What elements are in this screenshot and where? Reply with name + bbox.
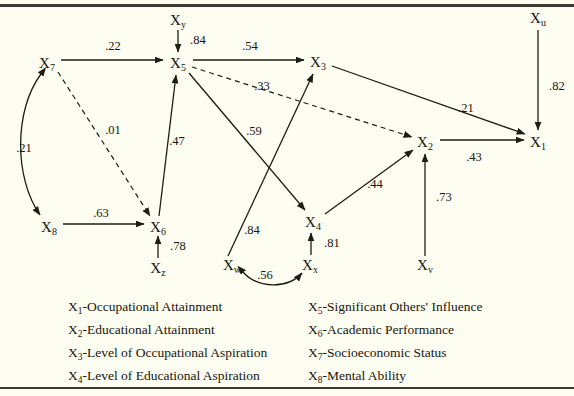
node-x7: X7: [39, 55, 55, 73]
node-x3: X3: [310, 54, 326, 72]
coefficient-xz-x6: .78: [170, 239, 186, 253]
legend-var-x2: X: [68, 322, 78, 337]
node-x4: X4: [305, 214, 321, 232]
coefficient-x5-x2: .33: [254, 79, 270, 93]
coefficient-xv-x2: .73: [436, 190, 452, 204]
legend-var-x1: X: [68, 299, 78, 314]
legend-desc-x8: -Mental Ability: [323, 368, 407, 383]
legend-sub-x4: 4: [78, 375, 83, 385]
coefficient-x2-x1: .43: [466, 150, 482, 164]
legend-item-x4: X4-Level of Educational Aspiration: [68, 365, 267, 388]
legend-item-x1: X1-Occupational Attainment: [68, 296, 267, 319]
edges-layer: [21, 30, 538, 285]
legend-sub-x2: 2: [78, 329, 83, 339]
legend-item-x6: X6-Academic Performance: [308, 319, 482, 342]
coefficient-x7-x6: .01: [105, 123, 121, 137]
legend-sub-x6: 6: [318, 329, 323, 339]
legend-item-x5: X5-Significant Others' Influence: [308, 296, 482, 319]
coefficient-xx-x4: .81: [324, 236, 340, 250]
legend-var-x6: X: [308, 322, 318, 337]
legend-var-x5: X: [308, 299, 318, 314]
node-x1: X1: [530, 134, 546, 152]
legend-desc-x3: -Level of Occupational Aspiration: [83, 345, 268, 360]
legend-var-x8: X: [308, 368, 318, 383]
legend-sub-x5: 5: [318, 306, 323, 316]
legend-column-left: X1-Occupational Attainment X2-Educationa…: [68, 296, 267, 388]
coefficient-x3-x1: .21: [458, 101, 474, 115]
legend-var-x3: X: [68, 345, 78, 360]
coefficient-xw-xx: .56: [257, 268, 273, 282]
coefficient-xw-x3: .84: [244, 223, 260, 237]
coefficient-x6-x5: .47: [169, 134, 185, 148]
legend-desc-x1: -Occupational Attainment: [83, 299, 223, 314]
coefficient-xu-x1: .82: [549, 79, 565, 93]
node-xv: Xv: [417, 257, 433, 275]
node-xw: Xw: [223, 257, 242, 275]
node-xu: Xu: [530, 10, 546, 28]
legend-column-right: X5-Significant Others' Influence X6-Acad…: [308, 296, 482, 388]
edge-x3-x1: [332, 66, 525, 134]
legend-desc-x7: -Socioeconomic Status: [323, 345, 447, 360]
path-diagram-figure: X7 X5 X3 X2 X1 X8 X6 X4 Xu Xv Xw Xx Xy X…: [0, 0, 574, 396]
path-diagram-canvas: X7 X5 X3 X2 X1 X8 X6 X4 Xu Xv Xw Xx Xy X…: [0, 0, 574, 290]
node-xz: Xz: [150, 260, 166, 278]
legend-sub-x1: 1: [78, 306, 83, 316]
node-xx: Xx: [302, 257, 318, 275]
legend-item-x3: X3-Level of Occupational Aspiration: [68, 342, 267, 365]
legend-item-x8: X8-Mental Ability: [308, 365, 482, 388]
edge-x5-x2-dashed: [192, 67, 412, 137]
legend-item-x2: X2-Educational Attainment: [68, 319, 267, 342]
legend-sub-x8: 8: [318, 375, 323, 385]
legend-desc-x5: -Significant Others' Influence: [323, 299, 483, 314]
coefficient-x4-x2: .44: [367, 177, 383, 191]
coefficient-xy-x5: .84: [190, 33, 206, 47]
legend-desc-x4: -Level of Educational Aspiration: [83, 368, 260, 383]
coefficients-layer: .22 .84 .54 .33 .01 .21 .47 .63 .78 .59 …: [16, 33, 564, 282]
edge-x7-x6-dashed: [58, 72, 150, 216]
node-x2: X2: [417, 134, 433, 152]
coefficient-x7-x5: .22: [105, 39, 121, 53]
coefficient-x8-x6: .63: [93, 206, 109, 220]
legend-desc-x6: -Academic Performance: [323, 322, 455, 337]
node-x6: X6: [150, 219, 166, 237]
edge-xw-x3: [228, 74, 313, 256]
bottom-rule: [0, 387, 574, 389]
legend-desc-x2: -Educational Attainment: [83, 322, 215, 337]
node-x8: X8: [41, 219, 57, 237]
legend-var-x4: X: [68, 368, 78, 383]
coefficient-x5-x3: .54: [242, 39, 258, 53]
legend-var-x7: X: [308, 345, 318, 360]
node-x5: X5: [170, 55, 186, 73]
legend-item-x7: X7-Socioeconomic Status: [308, 342, 482, 365]
legend: X1-Occupational Attainment X2-Educationa…: [0, 296, 574, 384]
legend-sub-x3: 3: [78, 352, 83, 362]
node-xy: Xy: [170, 12, 186, 30]
edge-x5-x4: [189, 73, 305, 210]
legend-sub-x7: 7: [318, 352, 323, 362]
coefficient-x7-x8: .21: [16, 141, 32, 155]
coefficient-x5-x4: .59: [246, 124, 262, 138]
